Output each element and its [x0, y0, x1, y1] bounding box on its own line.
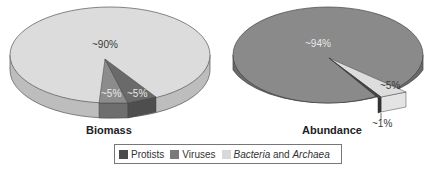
abundance-label-protists: ~1%: [372, 118, 392, 129]
legend-label-bacteria: Bacteria: [234, 149, 271, 160]
legend-item-protists: Protists: [119, 149, 164, 160]
legend-label-and: and: [270, 149, 292, 160]
biomass-label-protists: ~5%: [127, 88, 147, 99]
abundance-title: Abundance: [302, 124, 362, 136]
abundance-label-viruses: ~94%: [305, 38, 331, 49]
legend-label-archaea: Archaea: [292, 149, 329, 160]
legend-label-viruses: Viruses: [182, 149, 215, 160]
abundance-pie: [233, 7, 423, 120]
protists-swatch-icon: [119, 150, 128, 159]
legend: Protists Viruses Bacteria and Archaea: [114, 144, 342, 164]
biomass-pie: [10, 7, 210, 118]
biomass-label-bacteria: ~90%: [92, 39, 118, 50]
legend-item-bacteria-archaea: Bacteria and Archaea: [222, 149, 330, 160]
viruses-swatch-icon: [170, 150, 179, 159]
legend-item-viruses: Viruses: [170, 149, 215, 160]
bacteria-archaea-swatch-icon: [222, 150, 231, 159]
biomass-title: Biomass: [86, 124, 132, 136]
abundance-label-bacteria: ~5%: [380, 80, 400, 91]
legend-label-protists: Protists: [131, 149, 164, 160]
biomass-label-viruses: ~5%: [101, 88, 121, 99]
